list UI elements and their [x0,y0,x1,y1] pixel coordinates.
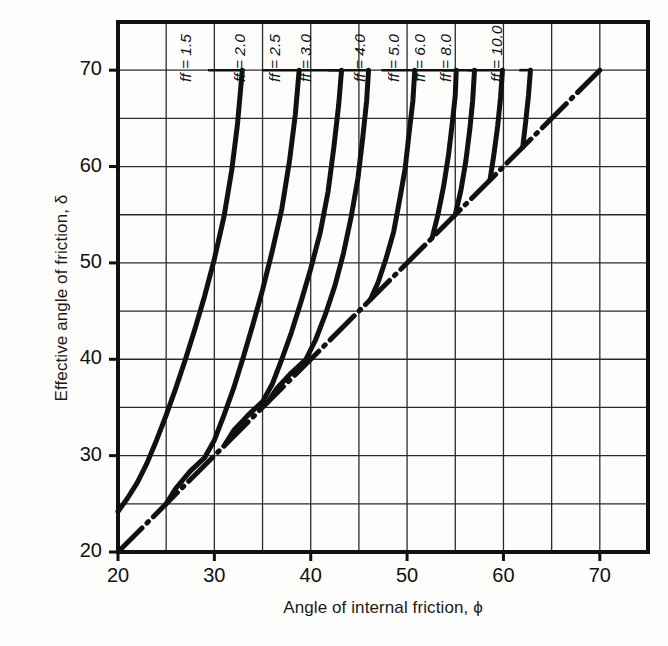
series-label-ff-1-5: ff = 1.5 [177,34,195,82]
series-label-ff-6: ff = 6.0 [411,34,429,82]
y-tick-label: 20 [56,539,102,562]
y-tick-label: 70 [56,57,102,80]
y-tick-label: 30 [56,443,102,466]
series-label-ff-5: ff = 5.0 [385,34,403,82]
x-tick-label: 60 [473,564,533,587]
series-label-ff-8: ff = 8.0 [437,34,455,82]
ff-curves [118,70,530,511]
curve-ff-6 [455,70,474,215]
x-tick-label: 20 [88,564,148,587]
x-axis-title: Angle of internal friction, ϕ [118,598,648,618]
y-tick-label: 60 [56,154,102,177]
x-tick-label: 30 [184,564,244,587]
curve-ff-8 [490,70,503,180]
curve-ff-5 [432,70,456,238]
x-tick-label: 70 [570,564,630,587]
series-label-ff-4: ff = 4.0 [351,34,369,82]
curve-ff-10 [523,70,531,147]
series-label-ff-10: ff = 10.0 [488,26,506,82]
series-label-ff-3: ff = 3.0 [297,34,315,82]
x-tick-label: 50 [377,564,437,587]
y-tick-label: 50 [56,250,102,273]
series-label-ff-2: ff = 2.0 [231,34,249,82]
x-tick-label: 40 [281,564,341,587]
y-tick-label: 40 [56,346,102,369]
series-label-ff-2-5: ff = 2.5 [266,34,284,82]
chart-figure: Effective angle of friction, δ Angle of … [0,0,668,646]
